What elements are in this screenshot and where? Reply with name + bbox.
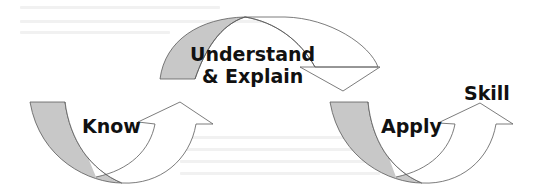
outcome-label-skill: Skill <box>464 84 510 103</box>
stage-label-understand-line2: & Explain <box>190 65 315 87</box>
stage-label-understand-line1: Understand <box>190 43 315 65</box>
stage-label-apply: Apply <box>381 117 442 136</box>
stage-label-know: Know <box>82 117 141 136</box>
stage-label-understand: Understand & Explain <box>190 43 315 87</box>
cycle-diagram <box>0 0 539 187</box>
